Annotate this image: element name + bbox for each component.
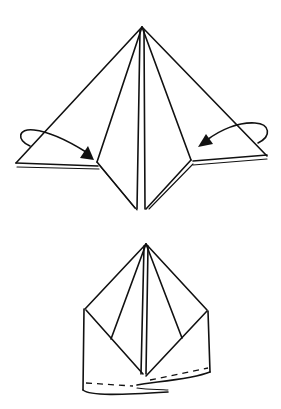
right-dashed-fold-line [150,368,208,380]
result-bottom-edge [83,390,168,394]
left-flap-bottom [16,163,98,166]
step-result [83,244,210,394]
result-right-inner-fold [146,244,182,338]
result-right-side [208,311,210,372]
left-dashed-fold-line [86,383,133,386]
result-right-diagonal [146,311,207,376]
left-inner-fold [97,27,142,162]
result-left-inner-fold [111,244,146,339]
center-spine-right [144,30,145,209]
left-outer-edge [16,27,142,163]
center-spine-left [137,30,140,209]
step-fold-sides-in [16,27,267,210]
right-inner-fold [142,27,191,160]
left-fold-arrow-icon [21,130,94,160]
right-fold-arrow-icon [198,123,267,147]
fold-diagram-svg [0,0,281,409]
diagram-canvas [0,0,281,409]
result-spine-right [146,246,148,374]
result-spine-left [141,246,144,374]
result-left-side [83,309,84,390]
result-right-top-edge [146,244,207,310]
result-left-diagonal [86,310,143,374]
right-lower-edge [146,160,191,209]
result-left-top-edge [85,244,146,309]
